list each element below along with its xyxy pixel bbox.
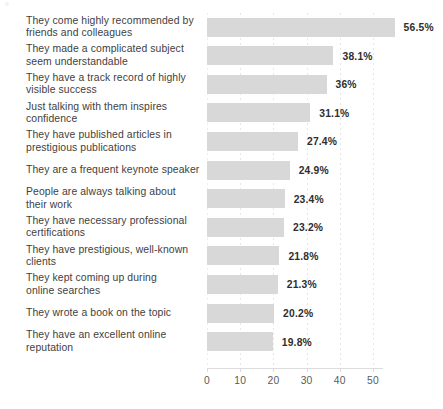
bar-container: 24.9% xyxy=(207,161,290,180)
bar-value-label: 21.8% xyxy=(288,250,318,261)
bar-row: People are always talking about their wo… xyxy=(0,185,443,214)
bar-container: 56.5% xyxy=(207,18,395,37)
bar xyxy=(207,46,333,65)
bar-row: They have published articles in prestigi… xyxy=(0,127,443,156)
bar-container: 19.8% xyxy=(207,332,273,351)
bar xyxy=(207,75,327,94)
category-label: They are a frequent keynote speaker xyxy=(26,156,206,185)
x-tick-label: 30 xyxy=(301,375,313,386)
bar-row: Just talking with them inspires confiden… xyxy=(0,99,443,128)
bar-container: 38.1% xyxy=(207,46,333,65)
bar-value-label: 19.8% xyxy=(282,336,312,347)
x-tick-20 xyxy=(273,368,274,372)
x-tick-10 xyxy=(240,368,241,372)
x-axis-line xyxy=(207,368,383,369)
category-label: They have prestigious, well-known client… xyxy=(26,242,202,271)
bar-row: They come highly recommended by friends … xyxy=(0,13,443,42)
category-label: They wrote a book on the topic xyxy=(26,299,206,328)
bar-row: They wrote a book on the topic20.2% xyxy=(0,299,443,328)
bar-value-label: 36% xyxy=(336,79,357,90)
bar-container: 31.1% xyxy=(207,103,310,122)
x-tick-40 xyxy=(340,368,341,372)
bar-container: 27.4% xyxy=(207,132,298,151)
bar-row: They have a track record of highly visib… xyxy=(0,70,443,99)
category-label: They have necessary professional certifi… xyxy=(26,213,202,242)
x-tick-label: 0 xyxy=(204,375,210,386)
bar-value-label: 24.9% xyxy=(299,165,329,176)
x-tick-30 xyxy=(307,368,308,372)
bar-row: They are a frequent keynote speaker24.9% xyxy=(0,156,443,185)
bar-value-label: 56.5% xyxy=(404,22,434,33)
bar-value-label: 38.1% xyxy=(342,50,372,61)
x-tick-0 xyxy=(207,368,208,372)
category-label: They kept coming up during online search… xyxy=(26,270,202,299)
bar xyxy=(207,304,274,323)
bar xyxy=(207,132,298,151)
bar-value-label: 20.2% xyxy=(283,308,313,319)
category-label: Just talking with them inspires confiden… xyxy=(26,99,202,128)
bar xyxy=(207,103,310,122)
x-tick-label: 50 xyxy=(367,375,379,386)
category-label: They have a track record of highly visib… xyxy=(26,70,202,99)
bar-row: They made a complicated subject seem und… xyxy=(0,42,443,71)
bar-value-label: 23.2% xyxy=(293,222,323,233)
bar xyxy=(207,189,285,208)
category-label: They come highly recommended by friends … xyxy=(26,13,202,42)
bar xyxy=(207,332,273,351)
bar-container: 23.2% xyxy=(207,218,284,237)
bar xyxy=(207,218,284,237)
bar xyxy=(207,246,279,265)
bar-value-label: 21.3% xyxy=(287,279,317,290)
bar-container: 21.8% xyxy=(207,246,279,265)
category-label: They have an excellent online reputation xyxy=(26,328,206,357)
bar-container: 21.3% xyxy=(207,275,278,294)
x-tick-label: 20 xyxy=(267,375,279,386)
category-label: They have published articles in prestigi… xyxy=(26,127,202,156)
bar-value-label: 27.4% xyxy=(307,136,337,147)
category-label: People are always talking about their wo… xyxy=(26,185,202,214)
x-tick-label: 40 xyxy=(334,375,346,386)
bar xyxy=(207,161,290,180)
decorative-dot xyxy=(5,2,9,6)
bar xyxy=(207,275,278,294)
x-tick-50 xyxy=(373,368,374,372)
bar-row: They have necessary professional certifi… xyxy=(0,213,443,242)
bar-value-label: 31.1% xyxy=(319,107,349,118)
x-tick-label: 10 xyxy=(234,375,246,386)
category-label: They made a complicated subject seem und… xyxy=(26,42,202,71)
bar-container: 20.2% xyxy=(207,304,274,323)
bar-row: They kept coming up during online search… xyxy=(0,270,443,299)
bar xyxy=(207,18,395,37)
bar-value-label: 23.4% xyxy=(294,193,324,204)
bar-container: 23.4% xyxy=(207,189,285,208)
bar-row: They have prestigious, well-known client… xyxy=(0,242,443,271)
bar-container: 36% xyxy=(207,75,327,94)
bar-chart: They come highly recommended by friends … xyxy=(0,0,443,409)
bar-row: They have an excellent online reputation… xyxy=(0,328,443,357)
